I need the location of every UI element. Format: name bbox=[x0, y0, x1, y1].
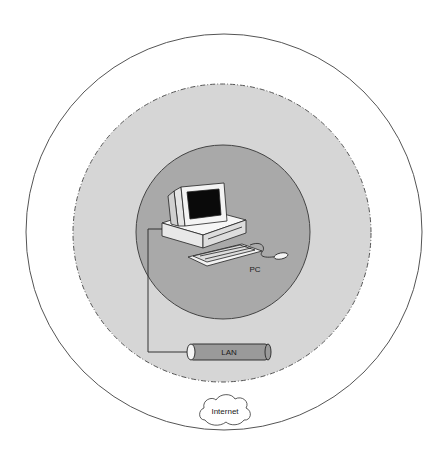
network-diagram: LAN PC Internet bbox=[0, 0, 446, 452]
lan-label: LAN bbox=[221, 348, 237, 357]
internet-label: Internet bbox=[211, 407, 239, 416]
pc-label: PC bbox=[249, 265, 260, 274]
